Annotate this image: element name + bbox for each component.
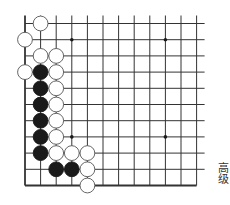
difficulty-label: 高级: [214, 162, 228, 184]
white-stone[interactable]: [33, 16, 48, 31]
white-stone[interactable]: [18, 65, 33, 80]
white-stone[interactable]: [80, 146, 95, 161]
white-stone[interactable]: [64, 146, 79, 161]
black-stone[interactable]: [49, 162, 64, 177]
white-stone[interactable]: [49, 65, 64, 80]
white-stone[interactable]: [49, 97, 64, 112]
white-stone[interactable]: [18, 32, 33, 47]
black-stone[interactable]: [33, 81, 48, 96]
white-stone[interactable]: [49, 49, 64, 64]
white-stone[interactable]: [49, 81, 64, 96]
white-stone[interactable]: [49, 130, 64, 145]
white-stone[interactable]: [49, 146, 64, 161]
white-stone[interactable]: [49, 113, 64, 128]
black-stone[interactable]: [33, 146, 48, 161]
black-stone[interactable]: [33, 65, 48, 80]
star-point-icon: [164, 38, 168, 42]
star-point-icon: [164, 135, 168, 139]
star-point-icon: [70, 38, 74, 42]
star-point-icon: [70, 135, 74, 139]
white-stone[interactable]: [80, 178, 95, 193]
white-stone[interactable]: [33, 49, 48, 64]
black-stone[interactable]: [33, 130, 48, 145]
white-stone[interactable]: [80, 162, 95, 177]
black-stone[interactable]: [64, 162, 79, 177]
go-board[interactable]: [0, 0, 230, 205]
black-stone[interactable]: [33, 113, 48, 128]
black-stone[interactable]: [33, 97, 48, 112]
